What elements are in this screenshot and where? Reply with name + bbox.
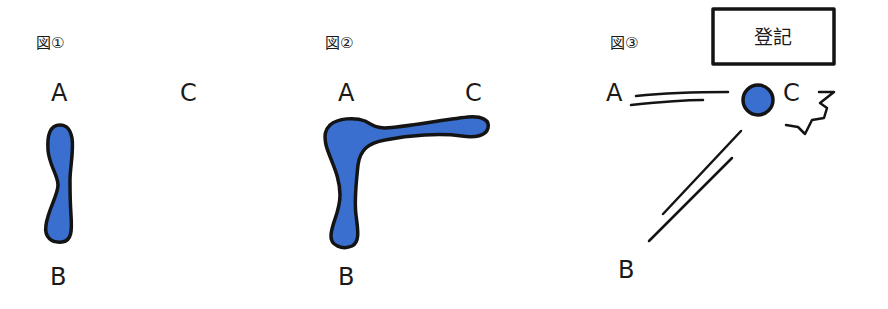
point-a-label: A [606, 79, 623, 107]
point-c-label: C [783, 79, 800, 107]
point-b-label: B [50, 263, 66, 291]
diagram-canvas: 図① A C B 図② A C B 図③ 登記 A C B [0, 0, 888, 309]
motion-line-b-2 [649, 158, 732, 241]
ball [743, 85, 773, 115]
figure-label-2: 図② [325, 34, 353, 52]
point-c-label: C [465, 79, 482, 107]
panel-2: 図② A C B [325, 34, 488, 291]
point-a-label: A [51, 79, 68, 107]
blob-b-a-c [325, 117, 488, 248]
point-b-label: B [338, 263, 354, 291]
figure-label-1: 図① [36, 34, 64, 52]
panel-3: 図③ 登記 A C B [606, 9, 834, 284]
panel-1: 図① A C B [36, 34, 197, 291]
point-a-label: A [338, 79, 355, 107]
motion-line-a-2 [631, 100, 703, 105]
point-b-label: B [618, 256, 634, 284]
motion-line-b-1 [663, 131, 741, 214]
registration-box-label: 登記 [754, 26, 792, 48]
point-c-label: C [180, 79, 197, 107]
motion-line-a-1 [636, 92, 728, 96]
figure-label-3: 図③ [610, 34, 638, 52]
blob-a-b [46, 125, 73, 242]
